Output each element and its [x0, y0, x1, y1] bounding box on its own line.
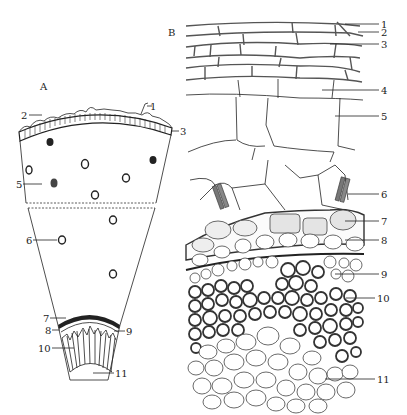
callout-a-8: 8 — [45, 325, 51, 336]
ground-parenchyma — [188, 97, 355, 210]
pericycle-cap-cells — [186, 210, 364, 260]
callout-b-2: 2 — [381, 27, 387, 38]
callout-a-2: 2 — [21, 110, 27, 121]
callout-a-11: 11 — [115, 368, 128, 379]
epidermis-layers — [186, 22, 363, 82]
stele-sheath — [58, 315, 120, 329]
callout-b-7: 7 — [381, 216, 387, 227]
wedge-left-edge-upper — [20, 141, 26, 203]
callout-a-1: 1 — [150, 101, 156, 112]
callout-b-8: 8 — [381, 235, 387, 246]
callout-b-3: 3 — [381, 39, 387, 50]
panel-a: A — [16, 81, 186, 380]
stem-cross-section-diagram: A — [0, 0, 407, 415]
callout-b-9: 9 — [381, 269, 387, 280]
callout-a-5: 5 — [16, 179, 22, 190]
xylem-rays — [62, 329, 115, 372]
callout-a-7: 7 — [43, 313, 49, 324]
panel-a-callouts: 1 2 3 5 6 7 8 9 10 11 — [16, 101, 186, 379]
wedge-right-edge-upper — [156, 135, 171, 203]
stele-left-edge — [58, 325, 70, 380]
callout-b-10: 10 — [377, 293, 390, 304]
callout-a-3: 3 — [180, 126, 186, 137]
callout-b-5: 5 — [381, 111, 387, 122]
callout-a-6: 6 — [26, 235, 32, 246]
phloem-cells — [190, 256, 362, 283]
panel-b-label: B — [168, 27, 175, 38]
callout-a-10: 10 — [38, 343, 51, 354]
callout-b-6: 6 — [381, 189, 387, 200]
hypodermis-layer — [186, 79, 363, 100]
callout-a-9: 9 — [126, 326, 132, 337]
wedge-right-edge-lower — [120, 208, 155, 325]
callout-b-4: 4 — [381, 85, 387, 96]
callout-b-11: 11 — [377, 374, 390, 385]
panel-a-label: A — [39, 81, 48, 92]
outer-bark-band — [19, 115, 172, 141]
panel-b: B — [168, 19, 390, 413]
wedge-left-edge-lower — [28, 208, 58, 325]
